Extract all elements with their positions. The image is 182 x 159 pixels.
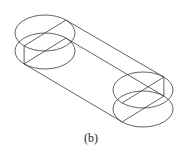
- figure-caption: (b): [0, 131, 182, 146]
- right-top-face-diameter-line: [122, 77, 164, 103]
- bottom-face-upper-tangent-line: [66, 38, 164, 96]
- top-face-upper-tangent-line: [66, 20, 164, 77]
- bottom-face-lower-tangent-line: [24, 64, 122, 122]
- right-bottom-face-diameter-line: [122, 96, 164, 122]
